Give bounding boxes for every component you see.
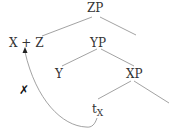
- edge-yp-xp: [101, 49, 134, 66]
- edge-xp-right: [134, 81, 169, 103]
- edge-zp-yp: [100, 17, 136, 35]
- node-yp: YP: [90, 37, 106, 49]
- edge-xp-trace: [98, 81, 131, 99]
- edge-yp-y: [62, 49, 97, 66]
- node-zp: ZP: [87, 2, 103, 14]
- movement-arrow: [25, 52, 97, 127]
- trace-subscript: X: [97, 108, 103, 118]
- node-trace: tX: [92, 103, 103, 116]
- node-y: Y: [55, 68, 63, 80]
- tree-lines: [0, 0, 171, 135]
- node-xp: XP: [126, 68, 143, 80]
- edge-zp-xz: [42, 17, 92, 36]
- cross-mark-icon: ✗: [19, 83, 29, 97]
- node-x-plus-z: X + Z: [9, 37, 44, 49]
